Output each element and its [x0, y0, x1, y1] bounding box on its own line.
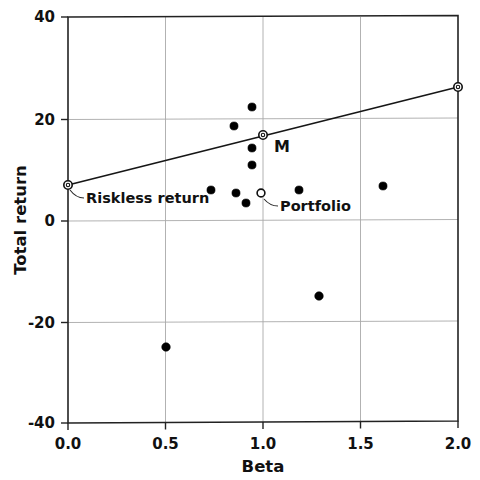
y-tick-label--20: -20: [28, 314, 55, 332]
riskless-return-point: [64, 181, 72, 189]
data-point: [232, 189, 240, 197]
y-tick-labels: 40 20 0 -20 -40: [28, 8, 55, 432]
market-portfolio-marker: [259, 131, 267, 139]
data-point: [295, 186, 303, 194]
data-point: [248, 161, 256, 169]
y-tick-label--40: -40: [28, 414, 55, 432]
sml-endpoint-marker: [454, 83, 462, 91]
riskless-return-marker: [64, 181, 72, 189]
y-axis-ticks: [61, 17, 68, 423]
data-point: [315, 292, 324, 301]
portfolio-point: [257, 189, 265, 197]
x-axis-title: Beta: [242, 457, 285, 476]
x-tick-label-0.5: 0.5: [152, 435, 179, 453]
x-tick-label-1.5: 1.5: [347, 435, 374, 453]
riskless-return-leader: [70, 190, 84, 198]
y-tick-label-20: 20: [34, 111, 55, 129]
data-point: [230, 122, 238, 130]
y-tick-label-0: 0: [45, 212, 55, 230]
data-point: [242, 199, 250, 207]
x-tick-label-0.0: 0.0: [55, 435, 82, 453]
security-market-line-chart: 40 20 0 -20 -40 0.0 0.5 1.0 1.5 2.0 Beta…: [0, 0, 480, 480]
data-point: [162, 343, 171, 352]
x-tick-label-1.0: 1.0: [250, 435, 277, 453]
x-tick-label-2.0: 2.0: [445, 435, 472, 453]
data-point: [379, 182, 387, 190]
y-axis-title: Total return: [11, 165, 30, 275]
sml-endpoint-point: [454, 83, 462, 91]
chart-canvas: 40 20 0 -20 -40 0.0 0.5 1.0 1.5 2.0 Beta…: [0, 0, 480, 480]
market-portfolio-label: M: [274, 137, 290, 156]
y-tick-label-40: 40: [34, 8, 55, 26]
data-point: [248, 144, 256, 152]
market-portfolio-point: [259, 131, 267, 139]
riskless-return-label: Riskless return: [86, 190, 209, 206]
portfolio-leader: [264, 199, 278, 206]
gridlines: [68, 17, 458, 423]
x-tick-labels: 0.0 0.5 1.0 1.5 2.0: [55, 435, 472, 453]
data-point: [248, 103, 256, 111]
portfolio-label: Portfolio: [280, 198, 351, 214]
